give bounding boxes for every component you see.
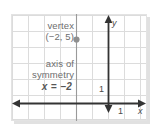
axis-of-symmetry-equation: x = −2 [12,81,72,92]
y-axis-tick-label: 1 [99,85,104,94]
x-axis-letter: x [138,107,143,116]
vertex-label: vertex [18,20,74,31]
parabola-vertex-diagram: vertex (−2, 5) axis of symmetry x = −2 1… [0,0,154,130]
vertex-coordinate-label: (−2, 5) [14,31,74,42]
y-axis [105,15,113,113]
axis-of-symmetry-label-line2: symmetry [12,69,74,80]
axis-of-symmetry-label-line1: axis of [18,58,74,69]
y-axis-letter: y [112,19,117,28]
x-axis-tick-label: 1 [118,107,123,116]
vertex-point [73,36,79,42]
x-axis [12,100,146,108]
